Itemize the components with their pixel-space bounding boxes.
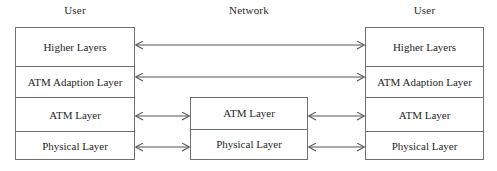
network-stack: ATM Layer Physical Layer: [190, 97, 308, 160]
user-right-stack: Higher Layers ATM Adaption Layer ATM Lay…: [365, 27, 484, 160]
column-title-user-left: User: [15, 4, 135, 16]
layer-cell-atm-layer-left[interactable]: ATM Layer: [16, 98, 134, 132]
layer-cell-physical-layer-network[interactable]: Physical Layer: [191, 130, 307, 159]
layer-cell-physical-layer-left[interactable]: Physical Layer: [16, 132, 134, 159]
layer-cell-atm-layer-network[interactable]: ATM Layer: [191, 98, 307, 130]
layer-cell-atm-adaption-layer-left[interactable]: ATM Adaption Layer: [16, 67, 134, 98]
layer-cell-higher-layers-left[interactable]: Higher Layers: [16, 28, 134, 67]
layer-cell-atm-layer-right[interactable]: ATM Layer: [366, 98, 483, 132]
layer-cell-higher-layers-right[interactable]: Higher Layers: [366, 28, 483, 67]
column-title-user-right: User: [365, 4, 484, 16]
user-left-stack: Higher Layers ATM Adaption Layer ATM Lay…: [15, 27, 135, 160]
layer-cell-physical-layer-right[interactable]: Physical Layer: [366, 132, 483, 159]
column-title-network: Network: [190, 4, 308, 16]
layer-cell-atm-adaption-layer-right[interactable]: ATM Adaption Layer: [366, 67, 483, 98]
atm-protocol-reference-model-diagram: User Network User Higher Layers ATM Adap…: [0, 0, 497, 171]
